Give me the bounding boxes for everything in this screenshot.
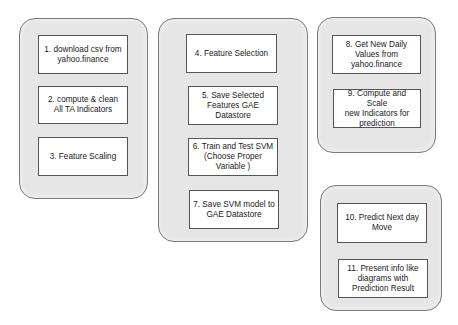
step-7-save-svm-model: 7. Save SVM model to GAE Datastore (189, 190, 279, 229)
step-6-train-test-svm: 6. Train and Test SVM (Choose Proper Var… (188, 138, 278, 176)
step-2-compute-clean-indicators: 2. compute & clean All TA Indicators (38, 86, 128, 124)
step-5-save-selected-features: 5. Save Selected Features GAE Datastore (188, 86, 278, 125)
step-11-present-info: 11. Present info like diagrams with Pred… (338, 259, 428, 298)
step-3-feature-scaling: 3. Feature Scaling (38, 137, 128, 176)
step-4-feature-selection: 4. Feature Selection (186, 34, 277, 73)
step-9-compute-scale-indicators: 9. Compute and Scale new Indicators for … (333, 89, 421, 128)
step-1-download-csv: 1. download csv from yahoo.finance (38, 35, 128, 74)
step-10-predict-next-day: 10. Predict Next day Move (337, 203, 427, 243)
step-8-get-daily-values: 8. Get New Daily Values from yahoo.finan… (332, 35, 421, 74)
